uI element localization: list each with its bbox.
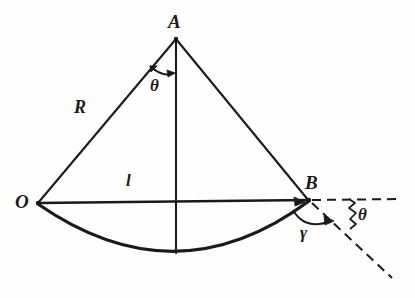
chord-label-l: l [126,172,131,189]
vertex-dot-B [307,198,311,202]
radius-label-R: R [74,98,86,116]
theta-bracket-arc [349,199,356,229]
apex-angle-label-theta: θ [150,77,159,94]
vertex-dot-O [36,201,40,205]
chord-segment-OB [38,200,309,203]
dashed-horizontal-ray [312,199,401,200]
point-label-O: O [15,192,29,211]
diagram-canvas: A O B R l θ θ γ [0,0,415,298]
point-label-B: B [305,173,318,192]
dashed-tangent-extension-ray [312,203,392,278]
apex-arc-arrowhead-right [167,70,175,77]
gamma-arc-arrowhead [324,216,334,225]
geometry-figure [0,0,415,298]
vertex-dot-A [174,37,178,41]
main-arc-OB [38,201,309,251]
point-label-A: A [168,12,181,31]
right-angle-label-theta: θ [358,206,367,223]
radius-segment-OA [38,39,176,203]
radius-segment-AB [176,39,309,201]
gamma-angle-label: γ [300,224,307,241]
